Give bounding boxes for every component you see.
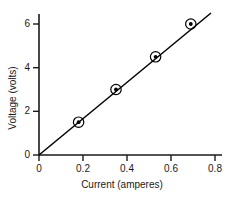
x-tick-label-2: 0.4 bbox=[120, 164, 134, 174]
chart-container: 0 0.2 0.4 0.6 0.8 0 2 4 6 Current (amper… bbox=[0, 0, 244, 198]
y-tick-label-1: 2 bbox=[20, 106, 30, 116]
y-tick-label-0: 0 bbox=[20, 150, 30, 160]
data-point-marker bbox=[150, 52, 160, 62]
y-axis-title: Voltage (volts) bbox=[8, 66, 18, 129]
best-fit-line bbox=[39, 13, 211, 155]
data-point-marker bbox=[73, 117, 83, 127]
x-tick-label-0: 0 bbox=[36, 164, 42, 174]
x-tick-label-3: 0.6 bbox=[164, 164, 178, 174]
y-tick-label-2: 4 bbox=[20, 63, 30, 73]
x-tick-marks bbox=[39, 155, 215, 161]
data-point-marker bbox=[186, 19, 196, 29]
data-point-marker bbox=[111, 84, 121, 94]
x-tick-label-1: 0.2 bbox=[76, 164, 90, 174]
x-axis-title: Current (amperes) bbox=[81, 180, 163, 190]
x-tick-label-4: 0.8 bbox=[208, 164, 222, 174]
y-tick-marks bbox=[33, 24, 39, 155]
y-tick-label-3: 6 bbox=[20, 19, 30, 29]
